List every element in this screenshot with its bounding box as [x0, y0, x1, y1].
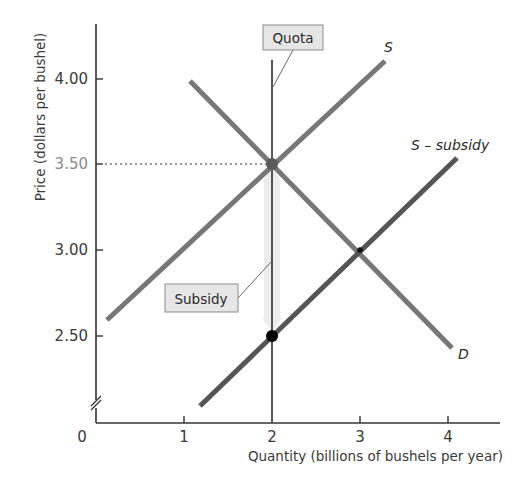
y-tick-4-00: 4.00 — [55, 70, 88, 88]
x-tick-1: 1 — [179, 428, 189, 446]
quota-price-point — [266, 158, 278, 170]
y-axis — [90, 24, 103, 423]
x-tick-3: 3 — [355, 428, 365, 446]
supply-curve-label: S — [384, 39, 393, 55]
supply-minus-subsidy-label: S – subsidy — [411, 137, 490, 153]
subsidy-callout-text: Subsidy — [174, 291, 227, 307]
x-axis — [96, 416, 500, 423]
quota-callout-text: Quota — [272, 30, 313, 46]
demand-curve-label: D — [458, 346, 469, 362]
farmer-price-point — [266, 330, 278, 342]
x-tick-2: 2 — [267, 428, 277, 446]
y-tick-3-00: 3.00 — [55, 241, 88, 259]
x-tick-4: 4 — [443, 428, 453, 446]
y-tick-3-50: 3.50 — [55, 155, 88, 173]
y-tick-2-50: 2.50 — [55, 327, 88, 345]
subsidy-equilibrium-point — [357, 247, 363, 253]
subsidy-callout: Subsidy — [165, 262, 271, 312]
x-axis-title: Quantity (billions of bushels per year) — [248, 448, 503, 464]
supply-curve — [107, 61, 385, 320]
y-axis-title: Price (dollars per bushel) — [32, 33, 48, 202]
x-tick-0: 0 — [77, 428, 87, 446]
chart: 4.00 3.50 3.00 2.50 0 1 2 3 4 Quantity (… — [0, 0, 526, 484]
